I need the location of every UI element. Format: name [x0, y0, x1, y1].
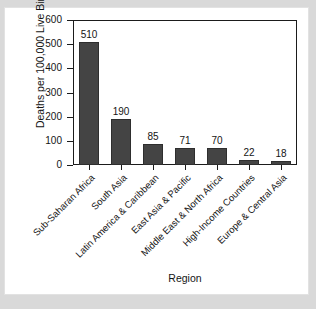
chart-panel: Deaths per 100,000 Live Births 010020030…	[4, 7, 309, 295]
bar-value-label: 190	[113, 106, 130, 117]
y-axis-tick	[67, 165, 73, 166]
x-axis-tick	[217, 165, 218, 170]
bar[interactable]	[207, 148, 227, 165]
x-axis-title: Region	[73, 272, 297, 284]
y-axis-title: Deaths per 100,000 Live Births	[34, 0, 46, 141]
bar-value-label: 510	[81, 29, 98, 40]
bar-slot: 510	[73, 20, 105, 165]
screenshot-canvas: Deaths per 100,000 Live Births 010020030…	[0, 0, 316, 309]
bar[interactable]	[143, 144, 163, 165]
y-axis-tick-label: 600	[45, 15, 62, 25]
bar-slot: 71	[169, 20, 201, 165]
y-axis-tick-label: 100	[45, 136, 62, 146]
bar-value-label: 85	[147, 131, 158, 142]
bar-value-label: 70	[211, 135, 222, 146]
bar-value-label: 71	[179, 135, 190, 146]
y-axis-tick-label: 300	[45, 88, 62, 98]
bars-layer: 5101908571702218	[73, 20, 297, 165]
x-axis-tick	[281, 165, 282, 170]
bar[interactable]	[79, 42, 99, 165]
x-axis-tick	[121, 165, 122, 170]
x-axis-tick	[89, 165, 90, 170]
bar-value-label: 22	[243, 147, 254, 158]
x-axis-tick	[249, 165, 250, 170]
bar-slot: 190	[105, 20, 137, 165]
bar-value-label: 18	[275, 148, 286, 159]
y-axis-tick-label: 200	[45, 112, 62, 122]
y-axis-tick-label: 400	[45, 63, 62, 73]
bar[interactable]	[111, 119, 131, 165]
bar-slot: 85	[137, 20, 169, 165]
bar-slot: 22	[233, 20, 265, 165]
bar-slot: 18	[265, 20, 297, 165]
y-axis-tick-label: 500	[45, 39, 62, 49]
bar[interactable]	[175, 148, 195, 165]
x-axis-tick	[185, 165, 186, 170]
y-axis-tick-label: 0	[56, 160, 62, 170]
bar-chart: Deaths per 100,000 Live Births 010020030…	[5, 8, 310, 296]
x-axis-tick	[153, 165, 154, 170]
bar-slot: 70	[201, 20, 233, 165]
